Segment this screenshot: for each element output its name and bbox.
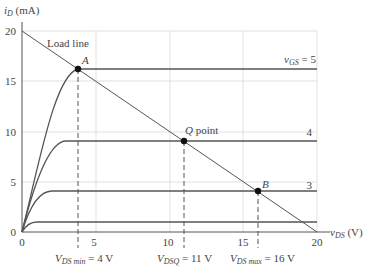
load-line xyxy=(22,31,317,232)
x-tick-0: 0 xyxy=(19,236,25,248)
vds-min-annotation: VDS min = 4 V xyxy=(55,252,113,266)
load-line-label: Load line xyxy=(47,37,89,49)
curve-vgs-3 xyxy=(22,191,317,232)
curve-vgs-4 xyxy=(22,141,317,232)
point-b-marker xyxy=(255,188,261,194)
y-axis-title: iD (mA) xyxy=(4,4,40,18)
curve-vgs-2 xyxy=(22,222,317,232)
x-tick-10: 10 xyxy=(163,236,175,248)
point-a-marker xyxy=(75,66,81,72)
y-tick-10: 10 xyxy=(5,126,17,138)
y-tick-20: 20 xyxy=(5,25,17,37)
x-tick-20: 20 xyxy=(312,236,324,248)
y-tick-15: 15 xyxy=(5,75,17,87)
vds-max-annotation: VDS max = 16 V xyxy=(230,252,295,266)
curve-vgs-5 xyxy=(22,69,317,232)
vgs-4-label: 4 xyxy=(307,126,313,138)
y-tick-5: 5 xyxy=(11,176,17,188)
point-b-label: B xyxy=(262,178,269,190)
point-q-label: Q point xyxy=(185,124,218,136)
dashed-projections xyxy=(78,69,258,248)
point-q-marker xyxy=(181,138,187,144)
characteristic-curves xyxy=(22,69,317,232)
x-axis-title: vDS (V) xyxy=(330,226,363,240)
point-a-label: A xyxy=(81,54,89,66)
x-tick-labels: 0 5 10 15 20 xyxy=(19,236,323,248)
vgs-5-label: vGS = 5 xyxy=(284,53,316,67)
x-tick-5: 5 xyxy=(91,236,97,248)
y-tick-labels: 20 15 10 5 0 xyxy=(5,25,17,238)
y-tick-0: 0 xyxy=(11,226,17,238)
x-tick-15: 15 xyxy=(238,236,250,248)
vgs-3-label: 3 xyxy=(307,179,313,191)
vds-q-annotation: VDSQ = 11 V xyxy=(157,252,212,266)
mosfet-characteristic-chart: 20 15 10 5 0 0 5 10 15 20 iD (mA) vDS (V… xyxy=(0,0,384,271)
